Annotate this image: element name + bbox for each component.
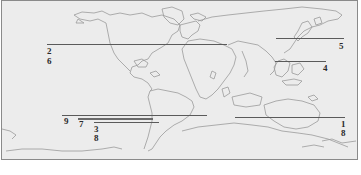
world-map: 2 6 5 4 9 7 3 8 1 8 — [1, 0, 358, 160]
label-5: 5 — [339, 42, 344, 51]
latitude-line-3-8 — [94, 122, 159, 123]
label-9: 9 — [64, 117, 69, 126]
latitude-line-4 — [275, 61, 326, 62]
latitude-line-2-6 — [47, 44, 227, 45]
label-8-australia: 8 — [341, 129, 346, 138]
label-6: 6 — [47, 57, 52, 66]
label-2: 2 — [47, 47, 52, 56]
label-4: 4 — [323, 64, 328, 73]
label-8-south-america: 8 — [94, 134, 99, 143]
latitude-line-1-8 — [235, 117, 345, 118]
latitude-line-7 — [78, 118, 153, 120]
latitude-line-5 — [276, 38, 344, 39]
label-7: 7 — [79, 120, 84, 129]
latitude-line-9 — [62, 115, 207, 116]
coastline-outlines — [2, 1, 359, 161]
